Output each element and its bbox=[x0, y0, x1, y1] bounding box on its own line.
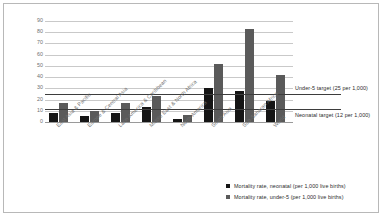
legend-item: Mortality rate, neonatal (per 1,000 live… bbox=[226, 180, 346, 191]
y-axis-tick-label: 50 bbox=[27, 63, 43, 68]
y-axis-tick-label: 60 bbox=[27, 52, 43, 57]
axis-baseline bbox=[45, 122, 293, 123]
y-axis-tick-label: 80 bbox=[27, 29, 43, 34]
chart-container: 9080706050403020100 Under-5 target (25 p… bbox=[3, 3, 379, 213]
y-axis-tick-label: 0 bbox=[27, 119, 43, 124]
target-label: Under-5 target (25 per 1,000) bbox=[295, 85, 368, 91]
legend-swatch bbox=[226, 184, 230, 188]
legend: Mortality rate, neonatal (per 1,000 live… bbox=[226, 180, 346, 202]
y-axis-tick-label: 40 bbox=[27, 74, 43, 79]
y-axis-tick-label: 90 bbox=[27, 18, 43, 23]
x-axis: East Asia & PacificEurope & Central Asia… bbox=[45, 124, 293, 182]
target-label: Neonatal target (12 per 1,000) bbox=[295, 112, 370, 118]
legend-swatch bbox=[226, 195, 230, 199]
legend-label: Mortality rate, neonatal (per 1,000 live… bbox=[234, 183, 346, 189]
y-axis-tick-label: 30 bbox=[27, 85, 43, 90]
bar bbox=[235, 91, 244, 122]
legend-label: Mortality rate, under-5 (per 1,000 live … bbox=[234, 194, 344, 200]
y-axis-tick-label: 20 bbox=[27, 97, 43, 102]
y-axis-tick-label: 70 bbox=[27, 40, 43, 45]
y-axis: 9080706050403020100 bbox=[23, 21, 43, 122]
y-axis-tick-label: 10 bbox=[27, 108, 43, 113]
legend-item: Mortality rate, under-5 (per 1,000 live … bbox=[226, 191, 346, 202]
